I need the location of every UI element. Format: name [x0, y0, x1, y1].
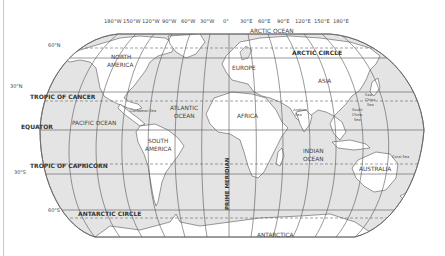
tropic-of-cancer-label: TROPIC OF CANCER — [30, 93, 96, 100]
lon-label-30e: 30°E — [240, 18, 252, 24]
lon-label-60w: 60°W — [181, 18, 195, 24]
label-asia: ASIA — [318, 78, 331, 84]
lat-label-60n: 60°N — [48, 42, 61, 48]
lon-label-90e: 90°E — [277, 18, 289, 24]
lat-label-30n: 30°N — [10, 83, 23, 89]
label-atlantic-ocean: OCEAN — [174, 113, 195, 119]
lat-label-60s: 60°S — [48, 207, 60, 213]
label-atlantic: ATLANTIC — [170, 105, 198, 111]
label-coral-sea: Coral Sea — [392, 155, 409, 159]
label-australia: AUSTRALIA — [359, 166, 391, 172]
label-north-america: AMERICA — [107, 62, 133, 68]
label-south-america: AMERICA — [145, 146, 171, 152]
antarctic-circle-label: ANTARCTIC CIRCLE — [78, 210, 141, 217]
lon-label-0: 0° — [223, 18, 229, 24]
label-africa: AFRICA — [237, 113, 258, 119]
label-europe: EUROPE — [232, 65, 256, 71]
label-arabian: Arabian — [293, 108, 307, 112]
label-caribbean-sea: Caribbean Sea — [130, 109, 156, 113]
lon-label-120w: 120°W — [142, 18, 160, 24]
lon-label-150e: 150°E — [314, 18, 330, 24]
label-east-china-sea: Sea — [367, 103, 374, 107]
label-north: NORTH — [111, 54, 131, 60]
label-south-china-sea: Sea — [354, 118, 361, 122]
lon-label-120e: 120°E — [295, 18, 311, 24]
label-pacific-ocean: PACIFIC OCEAN — [72, 120, 116, 126]
tropic-of-capricorn-label: TROPIC OF CAPRICORN — [30, 162, 108, 169]
label-south-china: China — [352, 113, 362, 117]
lon-label-60e: 60°E — [258, 18, 270, 24]
lon-label-180e: 180°E — [333, 18, 349, 24]
lon-label-180w: 180°W — [104, 18, 122, 24]
label-east: East — [365, 93, 373, 97]
label-south: SOUTH — [148, 138, 168, 144]
label-east-china: China — [365, 98, 375, 102]
lon-label-30w: 30°W — [200, 18, 214, 24]
equator-label: EQUATOR — [21, 123, 53, 130]
longitude-labels: 180°W 150°W 120°W 90°W 60°W 30°W 0° 30°E… — [104, 18, 349, 24]
arctic-circle-label: ARCTIC CIRCLE — [292, 49, 342, 56]
label-indian-ocean: OCEAN — [303, 156, 324, 162]
label-antarctica: ANTARCTICA — [257, 232, 293, 238]
prime-meridian-label: PRIME MERIDIAN — [224, 157, 230, 210]
label-south: South — [352, 108, 362, 112]
label-arctic-ocean: ARCTIC OCEAN — [250, 28, 293, 34]
label-arabian-sea: Sea — [295, 113, 302, 117]
lon-label-150w: 150°W — [123, 18, 141, 24]
label-indian: INDIAN — [303, 148, 324, 154]
lon-label-90w: 90°W — [162, 18, 176, 24]
lat-label-30s: 30°S — [14, 169, 26, 175]
world-map: 180°W 150°W 120°W 90°W 60°W 30°W 0° 30°E… — [0, 0, 445, 256]
